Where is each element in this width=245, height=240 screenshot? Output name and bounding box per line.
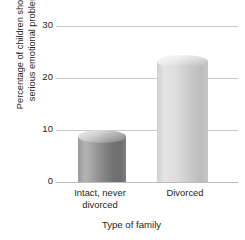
bar-top-cap [78, 130, 126, 143]
y-axis-title-line-1: Percentage of children showing [14, 0, 26, 109]
bar-body [157, 61, 208, 182]
x-tick-label-line-1: Intact, never [55, 187, 145, 199]
plot-area [56, 20, 238, 183]
x-tick-label-intact-never-divorced: Intact, never divorced [55, 187, 145, 210]
y-tick-label-30: 30 [31, 20, 53, 30]
gridline-20 [56, 78, 238, 79]
y-tick-label-10: 10 [31, 124, 53, 134]
bar-chart: Percentage of children showing serious e… [0, 0, 245, 240]
bar-cap-shading [78, 130, 126, 143]
bar-intact-never-divorced[interactable] [78, 130, 126, 182]
y-tick-label-20: 20 [31, 72, 53, 82]
x-tick-label-divorced: Divorced [140, 187, 230, 199]
bar-top-cap [157, 55, 208, 68]
x-axis-title: Type of family [0, 219, 245, 230]
y-tick-label-0: 0 [31, 176, 53, 186]
bar-cap-shading [157, 55, 208, 68]
x-tick-label-line-1: Divorced [140, 187, 230, 199]
gridline-30 [56, 26, 238, 27]
axis-baseline-0 [56, 182, 238, 183]
y-axis-tick-labels: 30 20 10 0 [26, 0, 53, 240]
bar-divorced[interactable] [157, 55, 208, 182]
x-tick-label-line-2: divorced [55, 199, 145, 211]
